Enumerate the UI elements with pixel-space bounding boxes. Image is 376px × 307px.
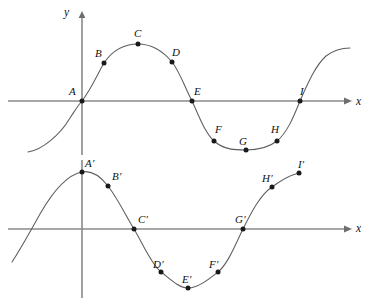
point-marker-A-prime (80, 170, 85, 175)
point-marker-G (244, 148, 249, 153)
point-label-H: H (271, 124, 279, 135)
point-label-E: E (194, 86, 201, 97)
point-marker-I-prime (297, 171, 302, 176)
point-marker-A (80, 99, 85, 104)
point-label-H-prime: H′ (262, 173, 273, 184)
upper-sine-curve (28, 44, 350, 152)
point-marker-H-prime (270, 185, 275, 190)
point-marker-F (212, 139, 217, 144)
point-marker-D (170, 60, 175, 65)
upper-y-axis-arrow-icon (79, 11, 86, 18)
upper-y-axis-label: y (64, 7, 69, 19)
point-marker-G-prime (241, 227, 246, 232)
point-marker-E (190, 99, 195, 104)
upper-x-axis-label: x (356, 96, 361, 108)
lower-x-axis-arrow-icon (344, 226, 352, 233)
point-label-E-prime: E′ (182, 274, 192, 285)
lower-cosine-curve (12, 172, 299, 288)
upper-x-axis-arrow-icon (344, 98, 352, 105)
point-label-I: I (300, 86, 304, 97)
point-marker-E-prime (186, 286, 191, 291)
point-label-D-prime: D′ (153, 259, 164, 270)
point-label-C: C (134, 28, 142, 39)
point-marker-D-prime (159, 270, 164, 275)
point-label-B: B (95, 48, 102, 59)
point-label-A: A (69, 86, 76, 97)
point-label-G-prime: G′ (235, 214, 246, 225)
point-label-I-prime: I′ (298, 159, 304, 170)
upper-graph-group (8, 11, 352, 155)
point-label-G: G (239, 136, 247, 147)
graph-canvas (0, 0, 376, 307)
point-marker-C-prime (132, 227, 137, 232)
lower-x-axis-label: x (356, 223, 361, 235)
point-marker-C (136, 42, 141, 47)
point-label-F: F (215, 124, 222, 135)
point-marker-F-prime (216, 270, 221, 275)
point-label-D: D (172, 47, 180, 58)
point-marker-I (298, 99, 303, 104)
lower-graph-group (8, 160, 352, 298)
point-label-A-prime: A′ (85, 158, 95, 169)
point-marker-H (275, 139, 280, 144)
figure-container: y x A B C D E F G H I x A′ B′ C′ D′ E′ F… (0, 0, 376, 307)
point-marker-B-prime (106, 184, 111, 189)
point-label-C-prime: C′ (138, 214, 148, 225)
point-label-B-prime: B′ (112, 171, 122, 182)
point-marker-B (102, 61, 107, 66)
point-label-F-prime: F′ (209, 259, 219, 270)
